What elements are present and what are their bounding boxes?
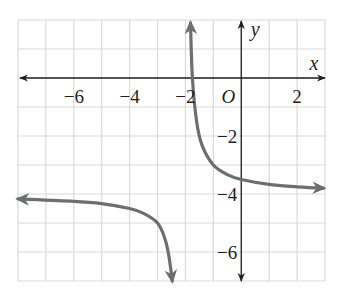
- x-tick-label: −4: [120, 86, 141, 107]
- x-tick-label: 2: [292, 86, 302, 107]
- grid-lines: [18, 20, 325, 281]
- function-graph: [18, 23, 324, 281]
- x-tick-label: −6: [64, 86, 84, 107]
- coordinate-plane: −6−4−22−2−4−6Oxy: [0, 0, 344, 296]
- origin-label: O: [222, 86, 236, 107]
- right-branch-curve: [191, 23, 324, 188]
- y-tick-label: −6: [217, 242, 237, 263]
- axes: [20, 21, 325, 281]
- y-axis-label: y: [249, 18, 260, 41]
- y-tick-label: −2: [217, 126, 237, 147]
- x-tick-label: −2: [175, 86, 195, 107]
- x-axis-label: x: [309, 52, 319, 74]
- y-tick-label: −4: [217, 184, 238, 205]
- left-branch-curve: [18, 199, 172, 281]
